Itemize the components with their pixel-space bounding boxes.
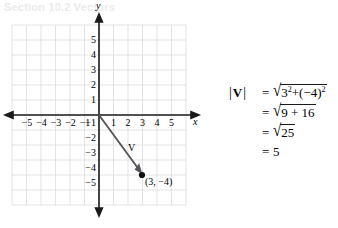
graph-svg (0, 0, 205, 228)
x-tick-label--4: −4 (35, 117, 49, 128)
radical-expression-2: √9 + 16 (273, 104, 316, 121)
magnitude-derivation: |V| = √32+(−4)2 = √9 + 16 = √25 = 5 (228, 84, 338, 164)
y-tick-label--5: −5 (80, 177, 96, 188)
radicand-term-2: (−4) (299, 85, 322, 100)
radicand-3: 25 (280, 124, 295, 141)
vector-label-v: V (128, 142, 135, 153)
y-tick-label-4: 4 (83, 49, 96, 60)
y-axis-label: y (96, 0, 100, 11)
x-tick-label--5: −5 (20, 117, 34, 128)
y-tick-label--2: −2 (80, 132, 96, 143)
equation-row-2: = √9 + 16 (228, 104, 338, 124)
y-tick-label-1: 1 (83, 94, 96, 105)
radical-expression-3: √25 (273, 124, 295, 141)
x-tick-label--3: −3 (49, 117, 63, 128)
y-tick-label--4: −4 (80, 162, 96, 173)
y-tick-label--1: −1 (80, 117, 96, 128)
x-tick-label-2: 2 (121, 117, 135, 128)
vector-symbol: V (233, 85, 242, 100)
abs-bar-close: | (242, 85, 247, 100)
plus-sign-1: + (292, 85, 299, 100)
x-tick-label-5: 5 (165, 117, 179, 128)
y-axis-arrow-down (96, 208, 103, 216)
equals-sign-1: = (262, 85, 273, 101)
x-tick-label-4: 4 (150, 117, 164, 128)
radicand-1: 32+(−4)2 (280, 84, 326, 101)
x-tick-label-1: 1 (107, 117, 121, 128)
y-tick-label--3: −3 (80, 147, 96, 158)
x-tick-label--2: −2 (64, 117, 78, 128)
x-axis-arrow-left (5, 112, 13, 119)
vector-endpoint-label: (3, −4) (145, 176, 172, 187)
equation-row-4: = 5 (228, 144, 338, 164)
equals-sign-3: = (262, 125, 273, 141)
equals-sign-4: = (262, 144, 273, 160)
x-tick-label-3: 3 (136, 117, 150, 128)
equals-sign-2: = (262, 105, 273, 121)
y-tick-label-5: 5 (83, 34, 96, 45)
equation-row-3: = √25 (228, 124, 338, 144)
coordinate-plane-figure: x y −5 −4 −3 −2 −1 1 2 3 4 5 1 2 3 4 5 −… (0, 0, 205, 228)
x-axis-label: x (193, 116, 197, 127)
y-tick-label-3: 3 (83, 64, 96, 75)
equation-row-1: |V| = √32+(−4)2 (228, 84, 338, 104)
magnitude-result: 5 (273, 144, 280, 160)
radicand-2: 9 + 16 (280, 104, 315, 121)
exponent-2: 2 (322, 85, 326, 94)
magnitude-notation: |V| (228, 85, 262, 101)
y-tick-label-2: 2 (83, 79, 96, 90)
y-axis-arrow-up (96, 14, 103, 22)
radical-expression-1: √32+(−4)2 (273, 84, 327, 101)
